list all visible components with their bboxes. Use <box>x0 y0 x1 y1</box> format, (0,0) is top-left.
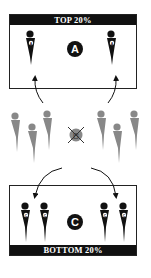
svg-text:A: A <box>71 43 79 55</box>
demote-arrow-right-icon <box>91 168 116 196</box>
middle-players-right <box>97 110 139 163</box>
diagram-graphics: A A A B C C C C <box>0 0 151 278</box>
demote-arrow-left-icon <box>35 168 62 196</box>
group-c-icon: C <box>67 214 83 230</box>
middle-players-left <box>11 110 52 163</box>
promote-arrow-right-icon <box>108 78 116 103</box>
bottom-players-left: C C <box>21 202 49 242</box>
top-player-left: A <box>26 30 35 65</box>
bottom-players-right: C C <box>100 202 128 242</box>
group-b-crossed-icon: B <box>68 127 84 143</box>
group-a-icon: A <box>67 41 83 57</box>
svg-text:C: C <box>71 216 79 228</box>
promote-arrow-left-icon <box>35 78 43 103</box>
top-player-right: A <box>107 30 116 65</box>
